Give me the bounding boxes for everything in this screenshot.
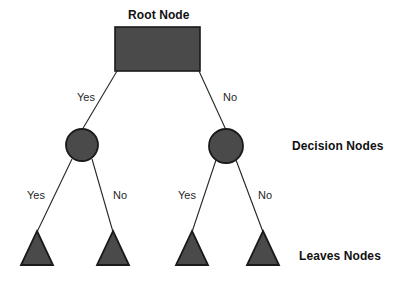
edge-label-left-yes: Yes bbox=[27, 190, 45, 201]
decision-node-right-shape bbox=[209, 129, 243, 163]
edge-label-left-no: No bbox=[113, 190, 127, 201]
root-node-shape bbox=[115, 27, 200, 71]
edge-label-right-no: No bbox=[258, 190, 272, 201]
decision-node-left-shape bbox=[66, 129, 98, 161]
leaf-node-1-shape bbox=[21, 231, 53, 265]
edge-left-decision-to-leaf-2 bbox=[92, 159, 113, 232]
root-node-label: Root Node bbox=[128, 9, 190, 21]
edge-label-root-no: No bbox=[223, 92, 237, 103]
edge-label-right-yes: Yes bbox=[178, 190, 196, 201]
legend-decision-nodes: Decision Nodes bbox=[292, 140, 383, 152]
legend-leaves-nodes: Leaves Nodes bbox=[299, 250, 381, 262]
edge-label-root-yes: Yes bbox=[77, 92, 95, 103]
decision-tree-diagram: Root Node Yes No Yes No Yes No Decision … bbox=[0, 0, 404, 285]
edge-root-to-right-decision bbox=[199, 71, 226, 130]
leaf-node-2-shape bbox=[97, 231, 129, 265]
leaf-node-4-shape bbox=[247, 231, 279, 265]
leaf-node-3-shape bbox=[176, 231, 208, 265]
